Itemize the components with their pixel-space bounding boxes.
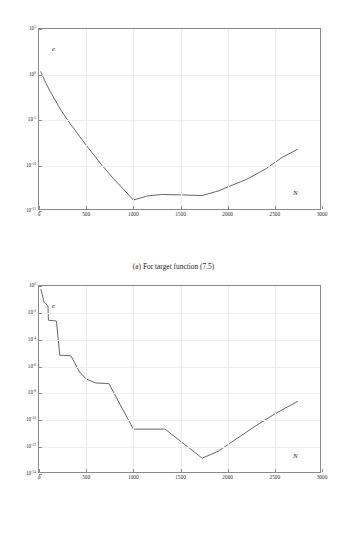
- x-axis-tick: [133, 469, 134, 472]
- y-axis-tick: [39, 75, 42, 76]
- y-axis-name-b: e: [52, 303, 55, 310]
- y-axis-tick: [39, 29, 42, 30]
- y-axis-tick: [39, 447, 42, 448]
- x-axis-tick-label: 1500: [175, 475, 186, 480]
- y-axis-tick-label: 10-12: [26, 445, 36, 450]
- y-axis-tick-label: 10-15: [26, 208, 36, 213]
- gridline-horizontal: [39, 367, 320, 368]
- x-axis-tick: [39, 206, 40, 209]
- gridline-horizontal: [39, 75, 320, 76]
- data-series-line: [41, 72, 298, 200]
- y-axis-tick-label: 10-5: [28, 117, 36, 122]
- figure-page: 10510010-510-1010-1505001000150020002500…: [0, 0, 347, 536]
- x-axis-tick-label: 3000: [317, 212, 328, 217]
- x-axis-tick: [228, 206, 229, 209]
- x-axis-tick: [133, 206, 134, 209]
- figure-a: 10510010-510-1010-1505001000150020002500…: [0, 18, 347, 230]
- gridline-vertical: [275, 286, 276, 472]
- x-axis-tick: [275, 469, 276, 472]
- gridline-vertical: [228, 29, 229, 209]
- y-axis-tick-label: 10-10: [26, 418, 36, 423]
- y-axis-tick-label: 10-2: [28, 310, 36, 315]
- x-axis-tick: [275, 206, 276, 209]
- gridline-vertical: [86, 286, 87, 472]
- axes-frame-a: 10510010-510-1010-1505001000150020002500…: [38, 28, 321, 210]
- y-axis-tick: [39, 420, 42, 421]
- y-axis-tick: [39, 286, 42, 287]
- x-axis-name-a: N: [293, 190, 298, 197]
- y-axis-tick: [39, 367, 42, 368]
- gridline-vertical: [181, 29, 182, 209]
- y-axis-name-a: e: [52, 46, 55, 53]
- y-axis-tick: [39, 120, 42, 121]
- plot-area-b: 10010-210-410-610-810-1010-1210-14050010…: [0, 275, 347, 487]
- x-axis-tick-label: 0: [38, 212, 41, 217]
- x-axis-tick-label: 2000: [222, 212, 233, 217]
- y-axis-tick-label: 10-4: [28, 337, 36, 342]
- gridline-vertical: [133, 286, 134, 472]
- x-axis-tick-label: 1000: [128, 475, 139, 480]
- x-axis-tick-label: 500: [82, 212, 90, 217]
- gridline-vertical: [181, 286, 182, 472]
- x-axis-tick: [39, 469, 40, 472]
- gridline-vertical: [275, 29, 276, 209]
- gridline-vertical: [133, 29, 134, 209]
- y-axis-tick-label: 100: [29, 72, 36, 77]
- y-axis-tick: [39, 340, 42, 341]
- x-axis-tick: [322, 469, 323, 472]
- x-axis-tick-label: 1000: [128, 212, 139, 217]
- data-series-line: [41, 289, 298, 458]
- x-axis-tick-label: 0: [38, 475, 41, 480]
- gridline-horizontal: [39, 120, 320, 121]
- x-axis-tick-label: 3000: [317, 475, 328, 480]
- x-axis-tick-label: 500: [82, 475, 90, 480]
- gridline-horizontal: [39, 166, 320, 167]
- y-axis-tick: [39, 393, 42, 394]
- x-axis-tick-label: 2500: [270, 475, 281, 480]
- x-axis-tick-label: 1500: [175, 212, 186, 217]
- x-axis-tick-label: 2000: [222, 475, 233, 480]
- y-axis-tick-label: 10-6: [28, 364, 36, 369]
- gridline-horizontal: [39, 313, 320, 314]
- x-axis-tick: [86, 469, 87, 472]
- gridline-horizontal: [39, 393, 320, 394]
- x-axis-name-b: N: [293, 453, 298, 460]
- y-axis-tick-label: 10-8: [28, 391, 36, 396]
- y-axis-tick-label: 10-10: [26, 163, 36, 168]
- gridline-vertical: [228, 286, 229, 472]
- x-axis-tick: [181, 469, 182, 472]
- x-axis-tick-label: 2500: [270, 212, 281, 217]
- gridline-horizontal: [39, 447, 320, 448]
- x-axis-tick: [322, 206, 323, 209]
- gridline-vertical: [86, 29, 87, 209]
- y-axis-tick-label: 10-14: [26, 471, 36, 476]
- x-axis-tick: [228, 469, 229, 472]
- x-axis-tick: [181, 206, 182, 209]
- y-axis-tick: [39, 166, 42, 167]
- figure-b: 10010-210-410-610-810-1010-1210-14050010…: [0, 275, 347, 487]
- y-axis-tick: [39, 313, 42, 314]
- gridline-horizontal: [39, 340, 320, 341]
- gridline-horizontal: [39, 420, 320, 421]
- caption-a: (a) For target function (7.5): [0, 263, 347, 270]
- x-axis-tick: [86, 206, 87, 209]
- axes-frame-b: 10010-210-410-610-810-1010-1210-14050010…: [38, 285, 321, 473]
- y-axis-tick-label: 105: [29, 26, 36, 31]
- y-axis-tick-label: 100: [29, 283, 36, 288]
- plot-area-a: 10510010-510-1010-1505001000150020002500…: [0, 18, 347, 230]
